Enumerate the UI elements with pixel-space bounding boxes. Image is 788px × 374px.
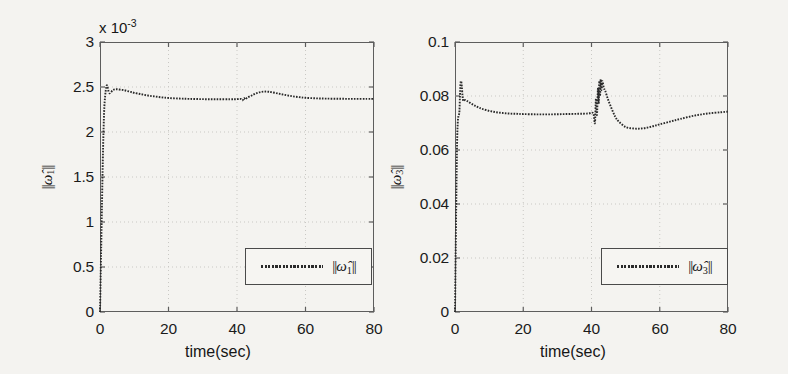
xtick-label: 80 bbox=[720, 320, 737, 338]
ytick-label: 0.08 bbox=[393, 87, 449, 105]
xtick-label: 20 bbox=[515, 320, 532, 338]
legend-line-sample bbox=[617, 265, 679, 268]
xtick-label: 40 bbox=[583, 320, 600, 338]
legend-label: ||ω̂3|| bbox=[688, 257, 712, 276]
x-axis-title: time(sec) bbox=[540, 343, 606, 361]
xtick-label: 0 bbox=[451, 320, 459, 338]
legend-omega3: ||ω̂3|| bbox=[601, 248, 728, 285]
y-axis-title: ||ω̂3|| bbox=[387, 122, 406, 232]
ytick-label: 0.1 bbox=[405, 33, 449, 51]
plot-panel-omega3: 0.1 0.08 0.06 0.04 0.02 0 0 20 40 60 80 … bbox=[0, 0, 788, 374]
xtick-label: 60 bbox=[652, 320, 669, 338]
ytick-label: 0 bbox=[417, 303, 449, 321]
ytick-label: 0.02 bbox=[393, 249, 449, 267]
figure-container: x 10-3 3 2.5 2 1.5 1 0.5 0 0 20 40 60 80… bbox=[0, 0, 788, 374]
